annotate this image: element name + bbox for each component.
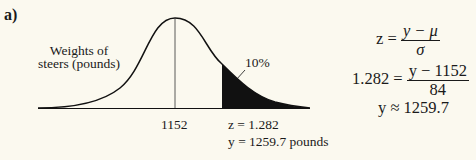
curve-label-line2: steers (pounds): [38, 57, 120, 70]
percent-label: 10%: [245, 55, 270, 71]
eq1-lhs: z =: [376, 29, 397, 48]
mean-tick-label: 1152: [161, 117, 188, 133]
y-label: y = 1259.7 pounds: [228, 134, 329, 150]
eq1-numerator: y − μ: [401, 22, 440, 41]
eq2-numerator: y − 1152: [407, 62, 469, 81]
eq2-denominator: 84: [430, 81, 447, 99]
equation-1: z = y − μ σ: [376, 22, 440, 59]
eq1-denominator: σ: [416, 41, 424, 59]
equation-3: y ≈ 1259.7: [378, 98, 449, 118]
equation-2: 1.282 = y − 1152 84: [352, 62, 469, 99]
eq2-fraction: y − 1152 84: [407, 62, 469, 99]
eq2-lhs: 1.282 =: [352, 69, 403, 88]
z-label: z = 1.282: [228, 117, 279, 133]
eq1-fraction: y − μ σ: [401, 22, 440, 59]
curve-label: Weights of steers (pounds): [38, 44, 120, 70]
percent-pointer: [236, 70, 245, 80]
